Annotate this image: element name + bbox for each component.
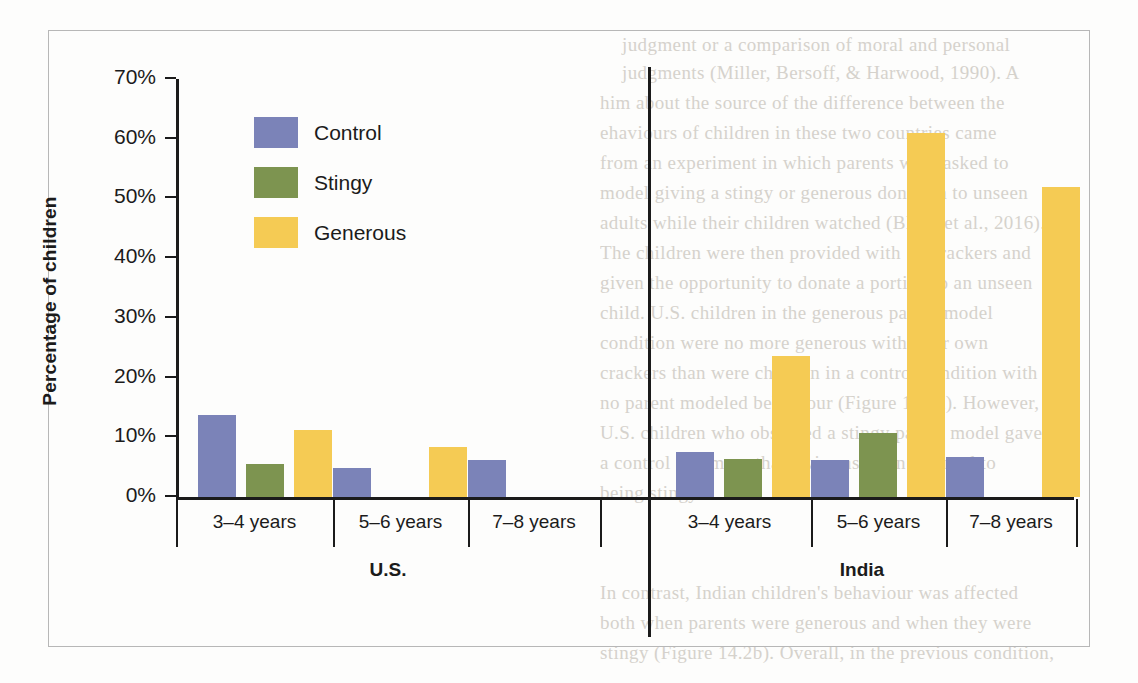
bar — [333, 468, 371, 497]
y-tick: 40% — [165, 256, 176, 258]
group-separator — [333, 499, 335, 547]
age-group-label: 3–4 years — [176, 511, 333, 533]
x-axis-line — [176, 497, 1074, 500]
age-group-label: 5–6 years — [811, 511, 946, 533]
age-group-label: 7–8 years — [468, 511, 600, 533]
country-label: U.S. — [176, 559, 600, 581]
y-tick-label: 10% — [114, 423, 156, 447]
group-separator — [946, 499, 948, 547]
y-tick: 60% — [165, 137, 176, 139]
y-tick: 20% — [165, 376, 176, 378]
legend-label-generous: Generous — [314, 221, 406, 245]
bar — [811, 460, 849, 497]
legend-item-generous: Generous — [254, 217, 406, 248]
y-tick-label: 60% — [114, 125, 156, 149]
bar — [294, 430, 332, 497]
y-tick-label: 0% — [126, 483, 156, 507]
group-separator — [600, 499, 602, 547]
group-separator — [176, 499, 178, 547]
legend-item-stingy: Stingy — [254, 167, 406, 198]
y-tick: 30% — [165, 316, 176, 318]
legend-swatch-control — [254, 117, 298, 148]
bar — [468, 460, 506, 497]
y-tick-label: 40% — [114, 244, 156, 268]
legend-label-stingy: Stingy — [314, 171, 372, 195]
legend-swatch-generous — [254, 217, 298, 248]
bar — [429, 447, 467, 497]
legend-swatch-stingy — [254, 167, 298, 198]
bar — [907, 133, 945, 497]
bar — [246, 464, 284, 497]
y-tick: 50% — [165, 196, 176, 198]
legend-item-control: Control — [254, 117, 406, 148]
y-tick-label: 50% — [114, 184, 156, 208]
y-tick: 10% — [165, 435, 176, 437]
group-separator — [811, 499, 813, 547]
y-tick-label: 20% — [114, 364, 156, 388]
bar — [859, 433, 897, 497]
country-divider — [648, 67, 651, 637]
bar — [676, 452, 714, 497]
figure-page: judgment or a comparison of moral and pe… — [0, 0, 1138, 683]
legend-label-control: Control — [314, 121, 382, 145]
y-tick-label: 30% — [114, 304, 156, 328]
y-tick-label: 70% — [114, 65, 156, 89]
bar — [198, 415, 236, 497]
age-group-label: 5–6 years — [333, 511, 468, 533]
age-group-label: 3–4 years — [648, 511, 811, 533]
y-axis-title: Percentage of children — [39, 171, 61, 431]
bar — [772, 356, 810, 497]
bar — [1042, 187, 1080, 498]
group-separator — [1076, 499, 1078, 547]
y-tick: 0% — [165, 495, 176, 497]
group-separator — [468, 499, 470, 547]
age-group-label: 7–8 years — [946, 511, 1076, 533]
bar — [946, 457, 984, 497]
y-tick: 70% — [165, 77, 176, 79]
bar — [724, 459, 762, 497]
country-label: India — [648, 559, 1076, 581]
y-axis-line — [176, 79, 179, 498]
chart-legend: Control Stingy Generous — [254, 117, 406, 267]
chart-frame: Percentage of children Control Stingy Ge… — [48, 30, 1090, 647]
